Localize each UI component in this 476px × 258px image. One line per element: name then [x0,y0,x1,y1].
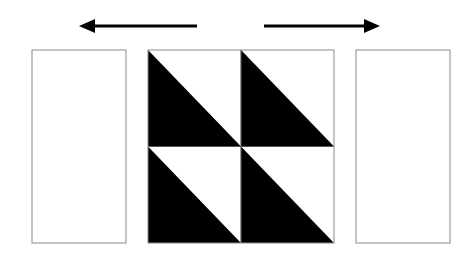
half-square-triangle-block [148,50,334,243]
triangle-cell [241,50,334,147]
left-blank-panel [32,50,126,243]
triangle-cell [148,147,241,244]
diagram-canvas [0,0,476,258]
triangle-cell [148,50,241,147]
right-blank-panel [356,50,450,243]
triangle-cell [241,147,334,244]
left-arrow-icon [79,19,197,33]
right-arrow-icon [264,19,380,33]
